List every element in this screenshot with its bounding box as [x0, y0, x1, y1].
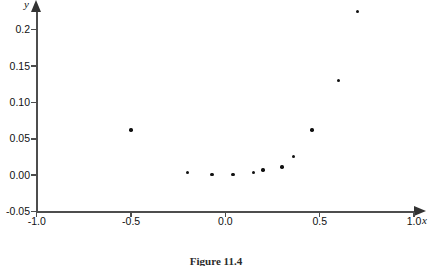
data-point: [356, 10, 359, 13]
data-point: [292, 155, 295, 158]
y-tick: [31, 174, 36, 175]
data-point: [231, 173, 234, 176]
y-axis-arrow-icon: [31, 0, 41, 12]
data-point: [186, 171, 189, 174]
figure-caption: Figure 11.4: [0, 255, 432, 266]
y-tick-label: 0.05: [0, 133, 30, 144]
y-tick: [31, 138, 36, 139]
figure-root: y x -0.050.000.050.100.150.2 -1.0-0.50.0…: [0, 0, 432, 266]
y-tick-label: 0.2: [0, 24, 30, 35]
y-tick-label: 0.15: [0, 61, 30, 72]
data-point: [280, 165, 283, 168]
data-point: [210, 173, 213, 176]
y-axis-label: y: [24, 0, 29, 10]
y-tick: [31, 29, 36, 30]
y-axis-line: [36, 10, 38, 213]
x-axis-line: [36, 211, 418, 213]
x-tick-label: 0.0: [205, 216, 245, 227]
y-tick-label: 0.00: [0, 170, 30, 181]
data-point: [337, 79, 340, 82]
x-tick-label: -0.5: [111, 216, 151, 227]
x-tick-label: 0.5: [300, 216, 340, 227]
data-point: [129, 128, 132, 131]
data-point: [261, 168, 264, 171]
y-tick-label: 0.10: [0, 97, 30, 108]
x-tick-label: 1.0: [394, 216, 432, 227]
data-point: [252, 171, 255, 174]
scatter-plot-area: y x -0.050.000.050.100.150.2 -1.0-0.50.0…: [0, 0, 432, 232]
y-tick: [31, 102, 36, 103]
data-point: [310, 128, 313, 131]
x-tick-label: -1.0: [17, 216, 57, 227]
y-tick: [31, 65, 36, 66]
